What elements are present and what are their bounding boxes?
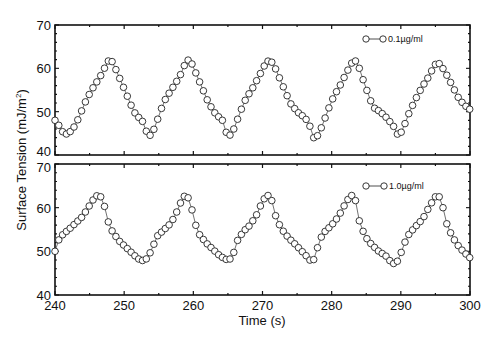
data-point: [356, 65, 363, 72]
data-point: [364, 87, 371, 94]
data-point: [250, 85, 257, 92]
data-point: [272, 66, 279, 73]
data-point: [466, 106, 473, 113]
data-point: [113, 66, 120, 73]
legend-bottom: 1.0µg/ml: [363, 181, 424, 191]
data-point: [177, 71, 184, 78]
y-tick-labels: 7060504070605040: [37, 18, 51, 303]
data-point: [193, 70, 200, 77]
data-point: [413, 94, 420, 101]
legend-top: 0.1µg/ml: [363, 34, 423, 44]
data-point: [253, 77, 260, 84]
data-point: [440, 65, 447, 72]
data-point: [345, 67, 352, 74]
data-point: [352, 197, 359, 204]
legend-marker-icon: [363, 183, 369, 189]
data-point: [151, 241, 158, 248]
data-point: [284, 92, 291, 99]
data-point: [90, 85, 97, 92]
panel-top-0.1ug-ml: 0.1µg/ml: [52, 25, 473, 155]
data-point: [193, 222, 200, 229]
data-point: [154, 116, 161, 123]
data-point: [269, 59, 276, 66]
x-tick-labels: 240250260270280290300: [44, 298, 481, 313]
data-point: [234, 116, 241, 123]
y-axis-title: Surface Tension (mJ/m2): [14, 89, 29, 231]
surface-tension-chart: Surface Tension (mJ/m2) 0.1µg/ml 1.0µg/m…: [0, 0, 496, 342]
data-point: [246, 91, 253, 98]
y-tick-label: 70: [37, 160, 51, 175]
data-point: [333, 216, 340, 223]
data-point: [97, 194, 104, 201]
data-point: [86, 91, 93, 98]
data-point: [444, 72, 451, 79]
data-point: [82, 99, 89, 106]
data-point: [360, 76, 367, 83]
data-point: [447, 79, 454, 86]
data-point: [337, 82, 344, 89]
data-point: [238, 106, 245, 113]
y-tick-label: 40: [37, 144, 51, 159]
data-point: [109, 58, 116, 65]
data-point: [409, 102, 416, 109]
x-tick-label: 300: [459, 298, 481, 313]
data-point: [417, 87, 424, 94]
data-point: [329, 96, 336, 103]
legend-marker-icon: [363, 36, 369, 42]
data-point: [227, 256, 234, 263]
data-point: [314, 132, 321, 139]
data-point: [128, 102, 135, 109]
data-point: [428, 200, 435, 207]
data-point: [333, 88, 340, 95]
data-point: [250, 218, 257, 225]
data-point: [398, 129, 405, 136]
data-point: [185, 195, 192, 202]
data-point: [421, 81, 428, 88]
data-point: [310, 256, 317, 263]
data-point: [402, 120, 409, 127]
data-point: [219, 117, 226, 124]
data-point: [303, 116, 310, 123]
y-tick-label: 70: [37, 18, 51, 33]
data-point: [402, 239, 409, 246]
y-tick-label: 60: [37, 61, 51, 76]
y-tick-label: 40: [37, 288, 51, 303]
data-point: [234, 237, 241, 244]
data-point: [425, 206, 432, 213]
legend-marker-icon: [381, 183, 387, 189]
data-point: [147, 250, 154, 257]
data-point: [280, 84, 287, 91]
x-tick-label: 260: [182, 298, 204, 313]
data-point: [390, 123, 397, 130]
data-point: [341, 74, 348, 81]
data-point: [189, 207, 196, 214]
data-point: [101, 65, 108, 72]
data-point: [466, 254, 473, 261]
data-point: [394, 258, 401, 265]
data-point: [318, 125, 325, 132]
data-point: [75, 117, 82, 124]
data-point: [356, 218, 363, 225]
panel-bottom-1.0ug-ml: 1.0µg/ml: [52, 164, 473, 295]
x-axis-title: Time (s): [238, 313, 285, 328]
data-point: [86, 203, 93, 210]
data-point: [231, 126, 238, 133]
y-tick-label: 60: [37, 201, 51, 216]
data-point: [436, 194, 443, 201]
data-point: [124, 93, 131, 100]
data-point: [200, 88, 207, 95]
data-point: [162, 96, 169, 103]
data-point: [158, 105, 165, 112]
data-point: [367, 98, 374, 105]
data-point: [406, 110, 413, 117]
data-point: [189, 61, 196, 68]
x-tick-label: 280: [321, 298, 343, 313]
data-point: [173, 78, 180, 85]
data-point: [314, 244, 321, 251]
data-point: [322, 115, 329, 122]
data-point: [143, 256, 150, 263]
panel-top-ticks: [55, 25, 470, 155]
data-point: [97, 72, 104, 79]
data-point: [272, 212, 279, 219]
panel-top-frame: [55, 25, 470, 155]
